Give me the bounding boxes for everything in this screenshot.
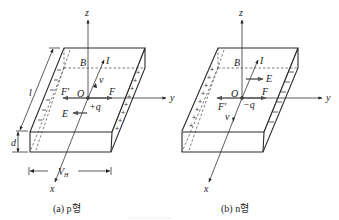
svg-text:+: + [136, 69, 140, 76]
svg-text:+: + [204, 82, 208, 89]
dimension-d: d [11, 132, 28, 152]
svg-text:+: + [133, 77, 137, 84]
right-face-charges [264, 48, 298, 132]
dimension-l: l [16, 48, 60, 131]
svg-text:+: + [127, 93, 131, 100]
l-label: l [29, 87, 32, 98]
x-label: x [49, 183, 55, 194]
v-label: v [99, 74, 104, 85]
svg-text:+: + [192, 114, 196, 121]
svg-text:+: + [115, 125, 119, 132]
y-label: y [325, 92, 331, 103]
right-face-charges: + + + + + + + + [112, 48, 145, 132]
diagram-n-type: + + + + + + + + z y x B I [182, 7, 331, 215]
I-label: I [105, 55, 110, 66]
d-label: d [11, 137, 17, 148]
svg-text:+: + [118, 117, 122, 124]
E-label: E [61, 108, 68, 119]
svg-text:+: + [198, 98, 202, 105]
diagram-p-type: + + + + + + + + z y x B I v O F' F [11, 7, 175, 215]
VH-label: VH [58, 166, 69, 178]
B-label: B [234, 57, 240, 68]
svg-text:+: + [124, 101, 128, 108]
svg-text:+: + [210, 66, 214, 73]
svg-text:+: + [207, 74, 211, 81]
svg-text:+: + [121, 109, 125, 116]
v-label: v [225, 111, 230, 122]
F-label: F [108, 86, 116, 97]
svg-text:+: + [189, 122, 193, 129]
caption-n-type: (b) n형 [221, 203, 249, 215]
hall-effect-figure: + + + + + + + + z y x B I v O F' F [0, 0, 339, 220]
svg-text:+: + [130, 85, 134, 92]
charge-label: −q [243, 99, 255, 110]
I-label: I [259, 55, 264, 66]
z-label: z [84, 7, 89, 18]
z-label: z [238, 7, 243, 18]
svg-text:+: + [201, 90, 205, 97]
dimension-VH: VH [29, 166, 111, 178]
left-face-charges: + + + + + + + + [189, 66, 214, 129]
svg-text:+: + [195, 106, 199, 113]
charge-label: +q [89, 101, 101, 112]
caption-p-type: (a) p형 [53, 203, 81, 215]
F-label: F [261, 86, 269, 97]
x-label: x [203, 183, 209, 194]
B-label: B [80, 57, 86, 68]
E-label: E [265, 73, 272, 84]
F-prime-label: F' [60, 86, 70, 97]
y-label: y [169, 92, 175, 103]
